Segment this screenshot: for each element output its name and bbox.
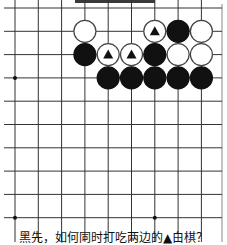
black-stone-body bbox=[74, 44, 96, 66]
white-stone-body bbox=[190, 20, 212, 42]
black-stone-body bbox=[167, 67, 189, 89]
black-stone[interactable] bbox=[121, 67, 143, 89]
problem-caption: 黑先，如何同时打吃两边的▲白棋？ bbox=[0, 231, 227, 245]
white-stone[interactable] bbox=[97, 44, 119, 66]
white-stone[interactable] bbox=[144, 20, 166, 42]
black-stone[interactable] bbox=[144, 44, 166, 66]
white-stone[interactable] bbox=[167, 44, 189, 66]
black-stone[interactable] bbox=[144, 67, 166, 89]
black-stone-body bbox=[190, 67, 212, 89]
black-stone[interactable] bbox=[167, 67, 189, 89]
black-stone[interactable] bbox=[190, 67, 212, 89]
black-stone[interactable] bbox=[97, 67, 119, 89]
white-stone-body bbox=[167, 44, 189, 66]
white-stone[interactable] bbox=[190, 44, 212, 66]
white-stone-body bbox=[74, 20, 96, 42]
star-point bbox=[13, 76, 17, 80]
black-stone-body bbox=[97, 67, 119, 89]
grid-lines bbox=[4, 0, 222, 242]
black-stone-body bbox=[144, 44, 166, 66]
white-stone[interactable] bbox=[121, 44, 143, 66]
white-stone[interactable] bbox=[74, 20, 96, 42]
black-stone-body bbox=[167, 20, 189, 42]
white-stone[interactable] bbox=[190, 20, 212, 42]
black-stone[interactable] bbox=[167, 20, 189, 42]
black-stone-body bbox=[121, 67, 143, 89]
star-point bbox=[153, 216, 157, 220]
white-stone-body bbox=[190, 44, 212, 66]
black-stone[interactable] bbox=[74, 44, 96, 66]
black-stone-body bbox=[144, 67, 166, 89]
star-point bbox=[13, 216, 17, 220]
